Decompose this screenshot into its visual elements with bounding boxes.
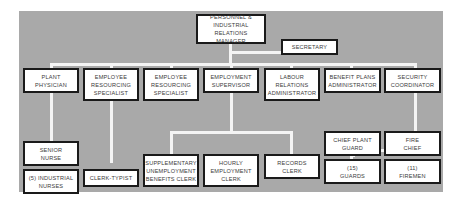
node-security-coordinator: SECURITY COORDINATOR — [384, 68, 441, 93]
node-supplementary-unemployment-benefits-clerk: SUPPLEMENTARY UNEMPLOYMENT BENEFITS CLER… — [143, 154, 199, 187]
node-chief-plant-guard: CHIEF PLANT GUARD — [324, 131, 381, 156]
node-guards: (15) GUARDS — [324, 159, 381, 184]
node-fire-chief: FIRE CHIEF — [384, 131, 441, 156]
node-employment-supervisor: EMPLOYMENT SUPERVISOR — [203, 68, 259, 93]
connector-sub-drop — [170, 131, 173, 155]
node-employee-resourcing-specialist-1: EMPLOYEE RESOURCING SPECIALIST — [83, 68, 139, 101]
node-records-clerk: RECORDS CLERK — [264, 154, 320, 179]
node-hourly-employment-clerk: HOURLY EMPLOYMENT CLERK — [203, 154, 259, 187]
node-labour-relations-administrator: LABOUR RELATIONS ADMINISTRATOR — [264, 68, 320, 101]
connector-secretary — [229, 51, 282, 54]
node-firemen: (11) FIREMEN — [384, 159, 441, 184]
connector-records-drop — [290, 131, 293, 155]
node-secretary: SECRETARY — [281, 39, 338, 55]
node-employee-resourcing-specialist-2: EMPLOYEE RESOURCING SPECIALIST — [143, 68, 199, 101]
node-plant-physician: PLANT PHYSICIAN — [23, 68, 79, 93]
node-benefit-plans-administrator: BENEFIT PLANS ADMINISTRATOR — [324, 68, 381, 93]
connector-level1-bar — [50, 63, 417, 66]
connector-clerks-bar — [170, 131, 292, 134]
node-manager: PERSONNEL & INDUSTRIAL RELATIONS MANAGER — [196, 14, 266, 44]
node-clerk-typist: CLERK-TYPIST — [83, 169, 139, 187]
node-senior-nurse: SENIOR NURSE — [23, 141, 79, 166]
node-industrial-nurses: (5) INDUSTRIAL NURSES — [23, 169, 79, 194]
